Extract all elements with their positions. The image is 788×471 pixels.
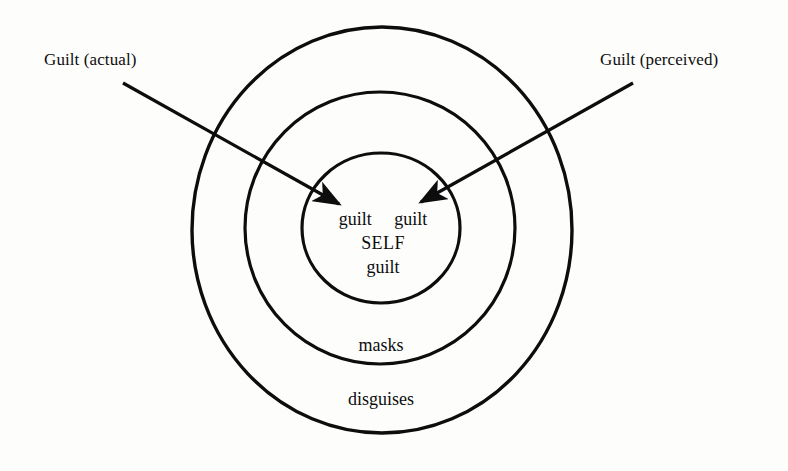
callout-label-guilt-actual: Guilt (actual) [44, 50, 137, 70]
ring-label-disguises: disguises [306, 389, 456, 410]
diagram-canvas: Guilt (actual) Guilt (perceived) guilt g… [0, 0, 788, 471]
callout-label-guilt-perceived: Guilt (perceived) [600, 50, 718, 70]
center-guilt-pair: guilt guilt [308, 209, 458, 230]
center-guilt-bottom: guilt [308, 257, 458, 278]
ring-label-masks: masks [316, 335, 446, 356]
guilt-actual-arrow [123, 83, 339, 204]
center-self-label: SELF [308, 233, 458, 254]
